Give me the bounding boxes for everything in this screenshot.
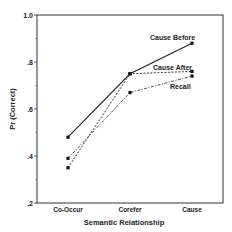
x-tick-label: Co-Occur — [53, 206, 83, 213]
plot-frame — [37, 15, 223, 203]
y-tick-label: .6 — [27, 106, 33, 113]
x-axis-title: Semantic Relationship — [84, 218, 165, 227]
series-layer — [66, 42, 193, 170]
data-point-marker — [66, 166, 69, 169]
y-axis-title: Pr (Correct) — [8, 88, 17, 130]
data-point-marker — [66, 136, 69, 139]
data-point-marker — [190, 42, 193, 45]
line-chart: 1.0 .8 .6 .4 .2 Co-Occur Corefer Cause S… — [0, 0, 232, 232]
series-label-cause-after: Cause After — [153, 64, 192, 71]
data-point-marker — [128, 72, 131, 75]
data-point-marker — [190, 75, 193, 78]
x-tick-label: Cause — [182, 206, 202, 213]
data-point-marker — [128, 91, 131, 94]
data-point-marker — [66, 157, 69, 160]
series-label-recall: Recall — [170, 83, 191, 90]
y-axis: 1.0 .8 .6 .4 .2 — [23, 12, 37, 207]
x-axis: Co-Occur Corefer Cause — [53, 206, 202, 213]
x-tick-label: Corefer — [118, 206, 142, 213]
series-line-cause-before — [68, 43, 192, 137]
y-tick-label: .8 — [27, 59, 33, 66]
series-label-cause-before: Cause Before — [150, 34, 195, 41]
y-tick-label: 1.0 — [23, 12, 33, 19]
y-tick-label: .2 — [27, 200, 33, 207]
y-tick-label: .4 — [27, 153, 33, 160]
